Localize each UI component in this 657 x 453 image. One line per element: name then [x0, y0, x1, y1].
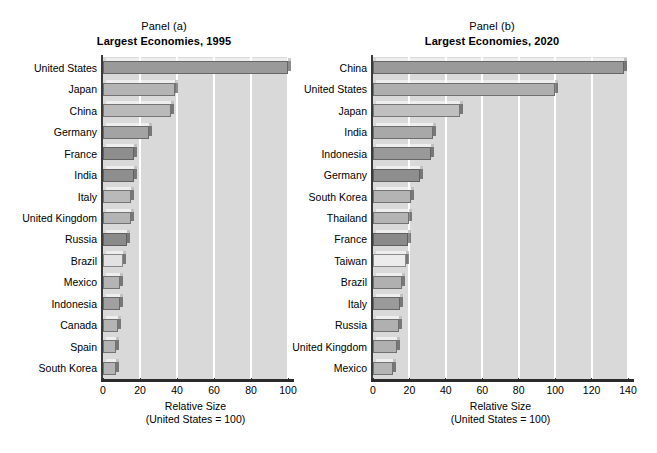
category-label-japan: Japan	[338, 105, 367, 116]
category-label-south-korea: South Korea	[39, 363, 97, 374]
bar-row: Russia	[373, 319, 628, 332]
bar-row: Germany	[373, 169, 628, 182]
panel-b-plot-area: ChinaUnited StatesJapanIndiaIndonesiaGer…	[373, 57, 628, 379]
panel-b-x-axis-subtitle: (United States = 100)	[313, 413, 657, 426]
figure-root: Panel (a) Largest Economies, 1995 United…	[0, 0, 657, 453]
panel-a-x-axis-title: Relative Size	[43, 400, 348, 413]
category-label-united-kingdom: United Kingdom	[292, 342, 367, 353]
bar-germany	[103, 126, 149, 139]
bar-row: France	[103, 147, 288, 160]
bar-face	[373, 276, 402, 289]
bar-row: Italy	[373, 297, 628, 310]
bar-indonesia	[373, 147, 431, 160]
bar-face	[373, 297, 400, 310]
bar-france	[373, 233, 408, 246]
bar-canada	[103, 319, 118, 332]
bar-row: Thailand	[373, 212, 628, 225]
bar-row: China	[373, 61, 628, 74]
x-tick-label-80: 80	[245, 384, 257, 396]
bar-face	[103, 233, 127, 246]
category-label-united-states: United States	[304, 84, 367, 95]
bar-face	[373, 233, 408, 246]
panel-b-bars: ChinaUnited StatesJapanIndiaIndonesiaGer…	[373, 57, 628, 379]
x-tick-60	[482, 378, 483, 382]
bar-row: Italy	[103, 190, 288, 203]
bar-row: China	[103, 104, 288, 117]
bar-south-korea	[373, 190, 411, 203]
category-label-mexico: Mexico	[64, 277, 97, 288]
bar-japan	[103, 83, 175, 96]
bar-germany	[373, 169, 420, 182]
panel-a-y-axis	[101, 55, 103, 379]
bar-face	[373, 83, 555, 96]
bar-united-states	[103, 61, 288, 74]
bar-brazil	[373, 276, 402, 289]
x-tick-label-40: 40	[440, 384, 452, 396]
category-label-spain: Spain	[70, 342, 97, 353]
panel-a-plot-area: United StatesJapanChinaGermanyFranceIndi…	[103, 57, 288, 379]
bar-face	[373, 147, 431, 160]
category-label-italy: Italy	[78, 191, 97, 202]
bar-russia	[103, 233, 127, 246]
bar-row: Russia	[103, 233, 288, 246]
category-label-russia: Russia	[335, 320, 367, 331]
bar-face	[373, 169, 420, 182]
bar-row: Spain	[103, 340, 288, 353]
panel-b-title: Largest Economies, 2020	[328, 35, 656, 47]
panel-a-supertitle: Panel (a)	[0, 20, 328, 32]
bar-row: South Korea	[103, 362, 288, 375]
bar-thailand	[373, 212, 409, 225]
bar-japan	[373, 104, 460, 117]
bar-indonesia	[103, 297, 120, 310]
x-tick-label-100: 100	[546, 384, 564, 396]
bar-face	[103, 190, 131, 203]
bar-face	[373, 126, 433, 139]
category-label-brazil: Brazil	[71, 256, 97, 267]
bar-face	[103, 297, 120, 310]
x-tick-label-20: 20	[404, 384, 416, 396]
bar-face	[103, 147, 134, 160]
x-tick-label-140: 140	[619, 384, 637, 396]
bar-row: South Korea	[373, 190, 628, 203]
bar-face	[103, 83, 175, 96]
category-label-indonesia: Indonesia	[321, 148, 367, 159]
bar-south-korea	[103, 362, 116, 375]
x-tick-20	[140, 378, 141, 382]
bar-mexico	[373, 362, 393, 375]
bar-row: United States	[103, 61, 288, 74]
x-tick-label-120: 120	[583, 384, 601, 396]
category-label-canada: Canada	[60, 320, 97, 331]
category-label-germany: Germany	[324, 170, 367, 181]
bar-face	[373, 190, 411, 203]
bar-row: Mexico	[373, 362, 628, 375]
bar-row: Indonesia	[103, 297, 288, 310]
bar-face	[373, 61, 624, 74]
category-label-south-korea: South Korea	[309, 191, 367, 202]
bar-united-kingdom	[103, 212, 131, 225]
category-label-india: India	[74, 170, 97, 181]
x-tick-20	[409, 378, 410, 382]
bar-face	[373, 212, 409, 225]
x-tick-100	[288, 378, 289, 382]
bar-face	[103, 126, 149, 139]
bar-united-states	[373, 83, 555, 96]
bar-row: India	[103, 169, 288, 182]
category-label-china: China	[340, 62, 367, 73]
panel-a-x-tick-labels: 020406080100	[103, 379, 288, 395]
bar-face	[373, 362, 393, 375]
category-label-italy: Italy	[348, 299, 367, 310]
bar-row: Germany	[103, 126, 288, 139]
category-label-japan: Japan	[68, 84, 97, 95]
x-tick-label-60: 60	[476, 384, 488, 396]
x-tick-label-60: 60	[208, 384, 220, 396]
panel-b-supertitle: Panel (b)	[328, 20, 656, 32]
bar-russia	[373, 319, 399, 332]
bar-china	[373, 61, 624, 74]
x-tick-40	[177, 378, 178, 382]
x-tick-100	[555, 378, 556, 382]
bar-india	[103, 169, 134, 182]
x-tick-80	[518, 378, 519, 382]
category-label-thailand: Thailand	[327, 213, 367, 224]
bar-row: France	[373, 233, 628, 246]
bar-spain	[103, 340, 116, 353]
